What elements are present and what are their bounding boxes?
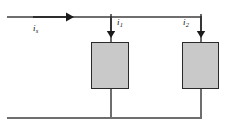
right-resistor: [182, 42, 219, 89]
circuit-diagram-canvas: is i1 i2: [0, 0, 227, 136]
branch1-current-arrow-icon: [104, 14, 118, 39]
left-resistor: [91, 42, 129, 89]
bottom-wire: [7, 117, 202, 119]
branch1-current-subscript: 1: [120, 21, 123, 28]
branch1-current-label: i1: [117, 18, 123, 27]
source-current-arrow-icon: [33, 10, 75, 24]
branch2-current-subscript: 2: [186, 21, 189, 28]
source-current-label: is: [33, 24, 38, 33]
branch2-current-label: i2: [183, 18, 189, 27]
branch2-current-arrow-icon: [194, 14, 208, 39]
source-current-subscript: s: [36, 27, 39, 34]
